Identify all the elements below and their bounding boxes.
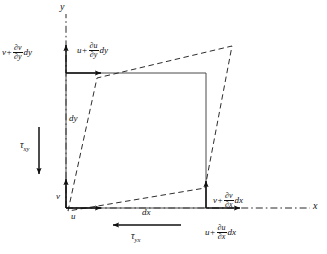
label-v-plus-dvdy-dy: v+∂v∂ydy xyxy=(2,44,32,62)
fraction-dvdy-denominator: ∂y xyxy=(13,53,23,61)
label-u-origin: u xyxy=(71,212,76,221)
fraction-dudx-denominator: ∂x xyxy=(217,233,227,241)
label-u-plus-dudx-dx: u+∂u∂xdx xyxy=(205,224,236,242)
displacement-arrows-group xyxy=(66,45,240,208)
label-v-plus-dvdx-dx: v+∂v∂xdx xyxy=(213,192,243,210)
label-tau-yx: τyx xyxy=(131,231,140,244)
x-axis-label: x xyxy=(313,201,317,211)
fraction-dudy-denominator: ∂y xyxy=(89,51,99,59)
label-v-plus-dvdx-dx-trail: dx xyxy=(235,195,244,205)
label-u-plus-dudy-dy-plus: + xyxy=(82,45,88,55)
undeformed-element-square xyxy=(66,73,206,208)
label-dx: dx xyxy=(142,208,151,217)
label-v-plus-dvdy-dy-trail: dy xyxy=(24,47,33,57)
fraction-dvdx-denominator: ∂x xyxy=(224,201,234,209)
label-v-plus-dvdx-dx-plus: + xyxy=(217,195,223,205)
label-u-plus-dudx-dx-trail: dx xyxy=(228,227,237,237)
fraction-dudx: ∂u∂x xyxy=(217,224,227,242)
fraction-dvdy: ∂v∂y xyxy=(13,44,23,62)
label-v-origin: v xyxy=(56,192,60,201)
label-u-plus-dudy-dy: u+∂u∂ydy xyxy=(77,42,108,60)
deformed-element-quad xyxy=(68,46,232,211)
label-tau-xy-subscript: xy xyxy=(24,145,30,152)
label-tau-yx-subscript: yx xyxy=(135,236,141,243)
fraction-dudy: ∂u∂y xyxy=(89,42,99,60)
fraction-dvdx: ∂v∂x xyxy=(224,192,234,210)
label-u-plus-dudx-dx-plus: + xyxy=(210,227,216,237)
label-dy: dy xyxy=(69,114,78,123)
shear-stress-arrows-group xyxy=(39,127,181,225)
diagram-canvas xyxy=(0,0,327,254)
label-tau-xy: τxy xyxy=(20,140,29,153)
y-axis-label: y xyxy=(60,2,64,12)
deformed-outline-path xyxy=(68,46,232,211)
label-v-plus-dvdy-dy-plus: + xyxy=(6,47,12,57)
shear-strain-diagram: y x v+∂v∂ydy u+∂u∂ydy v+∂v∂xdx u+∂u∂xdx … xyxy=(0,0,327,254)
label-u-plus-dudy-dy-trail: dy xyxy=(100,45,109,55)
